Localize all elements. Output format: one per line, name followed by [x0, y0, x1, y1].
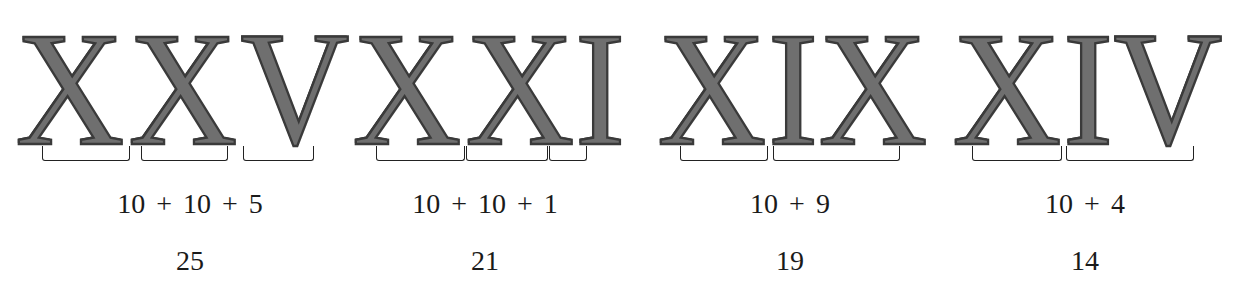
- grouping-brackets: [360, 146, 610, 166]
- numeral-letter: I: [768, 14, 813, 164]
- numeral-letter: I: [1063, 14, 1108, 164]
- expansion-equation: 10 + 9: [665, 188, 915, 220]
- numeral-letter: X: [16, 14, 119, 164]
- numeral-group-xxi: X X I 10 + 10 + 1 21: [360, 0, 610, 298]
- roman-numeral: X X V: [30, 14, 330, 164]
- numeral-letter: X: [128, 14, 231, 164]
- expansion-equation: 10 + 10 + 5: [50, 188, 330, 220]
- numeral-group-xxv: X X V 10 + 10 + 5 25: [30, 0, 330, 298]
- roman-numeral: X I V: [960, 14, 1210, 164]
- numeral-letter: X: [819, 14, 922, 164]
- roman-numeral: X X I: [360, 14, 610, 164]
- numeral-letter: X: [658, 14, 761, 164]
- numeral-group-xiv: X I V 10 + 4 14: [960, 0, 1210, 298]
- bracket-part-3: [243, 146, 314, 161]
- bracket-part-3: [549, 146, 587, 161]
- bracket-part-1: [972, 146, 1062, 161]
- decimal-result: 21: [360, 245, 610, 277]
- bracket-part-1: [376, 146, 465, 161]
- decimal-result: 25: [50, 245, 330, 277]
- grouping-brackets: [960, 146, 1210, 166]
- bracket-part-2: [1066, 146, 1194, 161]
- numeral-letter: I: [575, 14, 620, 164]
- bracket-part-2: [773, 146, 900, 161]
- bracket-part-2: [141, 146, 228, 161]
- numeral-letter: X: [353, 14, 456, 164]
- numeral-letter: X: [465, 14, 568, 164]
- numeral-group-xix: X I X 10 + 9 19: [665, 0, 915, 298]
- expansion-equation: 10 + 4: [960, 188, 1210, 220]
- numeral-letter: X: [953, 14, 1056, 164]
- decimal-result: 19: [665, 245, 915, 277]
- bracket-part-1: [680, 146, 768, 161]
- grouping-brackets: [30, 146, 330, 166]
- numeral-letter: V: [1114, 14, 1217, 164]
- grouping-brackets: [665, 146, 915, 166]
- bracket-part-1: [42, 146, 130, 161]
- roman-numeral: X I X: [665, 14, 915, 164]
- decimal-result: 14: [960, 245, 1210, 277]
- expansion-equation: 10 + 10 + 1: [360, 188, 610, 220]
- numeral-letter: V: [241, 14, 344, 164]
- bracket-part-2: [466, 146, 548, 161]
